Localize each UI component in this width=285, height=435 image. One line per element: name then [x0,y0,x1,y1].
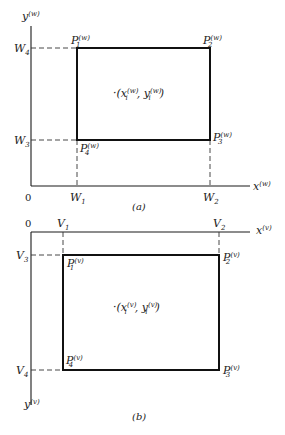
corner-p1-a: P(w)1 [70,34,90,49]
y-axis-label-a: y(w) [21,10,40,23]
point-label-a: ·(x(w)i, y(w)i) [113,87,164,102]
tick-v2: V2 [213,217,226,232]
caption-a: (a) [132,201,146,212]
tick-v1: V1 [57,217,69,232]
tick-w3: W3 [14,134,30,149]
figure-a-world-window: y(w) x(w) 0 W4 W3 W1 W2 P(w)1 P(w)2 P(w)… [14,10,271,212]
corner-p2-a: P(w)2 [202,34,222,49]
x-axis-label-a: x(w) [253,180,271,193]
origin-label-b: 0 [25,218,31,229]
tick-w1: W1 [70,191,86,206]
corner-p3-a: P(w)3 [212,131,232,146]
x-axis-label-b: x(v) [256,224,272,237]
tick-v4: V4 [16,364,28,379]
point-label-b: ·(x(v)i, y(v)i) [113,301,160,316]
origin-label-a: 0 [25,192,31,203]
caption-b: (b) [132,411,146,422]
tick-w4: W4 [14,42,30,57]
tick-v3: V3 [16,249,29,264]
corner-p1-b: P(v)1 [66,257,84,272]
y-axis-label-b: y(v) [23,398,40,411]
figure-b-viewport: 0 x(v) y(v) V1 V2 V3 V4 P(v)1 P(v)2 P(v)… [16,217,272,422]
corner-p4-b: P(v)4 [65,354,83,369]
tick-w2: W2 [203,191,219,206]
corner-p2-b: P(v)2 [222,251,240,266]
corner-p3-b: P(v)3 [222,364,240,379]
corner-p4-a: P(w)4 [79,142,99,157]
window-viewport-diagram: y(w) x(w) 0 W4 W3 W1 W2 P(w)1 P(w)2 P(w)… [0,0,285,435]
